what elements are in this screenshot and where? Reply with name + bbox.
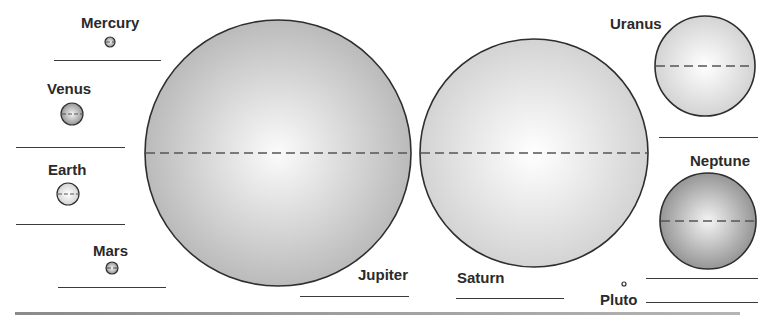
answer-line-mars	[58, 287, 166, 288]
planet-label-venus: Venus	[47, 81, 91, 96]
planet-pluto-sphere	[622, 282, 626, 286]
planet-label-uranus: Uranus	[610, 16, 662, 31]
planet-saturn	[420, 39, 648, 267]
planet-venus	[61, 103, 83, 125]
answer-line-pluto	[646, 302, 758, 303]
answer-line-venus	[16, 147, 125, 148]
planet-label-saturn: Saturn	[457, 270, 505, 285]
answer-line-neptune	[646, 278, 758, 279]
planet-mars	[106, 262, 118, 274]
answer-line-mercury	[54, 60, 161, 61]
planet-label-pluto: Pluto	[600, 292, 638, 307]
answer-line-jupiter	[300, 296, 409, 297]
planet-label-earth: Earth	[48, 162, 86, 177]
planet-label-mercury: Mercury	[81, 15, 139, 30]
answer-line-saturn	[456, 298, 564, 299]
answer-line-uranus	[659, 137, 758, 138]
planet-label-neptune: Neptune	[690, 153, 750, 168]
planet-pluto	[622, 282, 626, 286]
answer-line-earth	[16, 224, 125, 225]
planet-uranus	[655, 16, 755, 116]
bottom-divider-bar	[15, 312, 740, 315]
solar-system-diagram: MercuryVenusEarthMarsJupiterSaturnUranus…	[0, 0, 758, 318]
planet-label-mars: Mars	[93, 243, 128, 258]
planet-mercury	[105, 37, 115, 47]
planet-jupiter	[145, 20, 411, 286]
planet-neptune	[660, 173, 756, 269]
planet-earth	[57, 183, 79, 205]
planet-label-jupiter: Jupiter	[358, 267, 408, 282]
